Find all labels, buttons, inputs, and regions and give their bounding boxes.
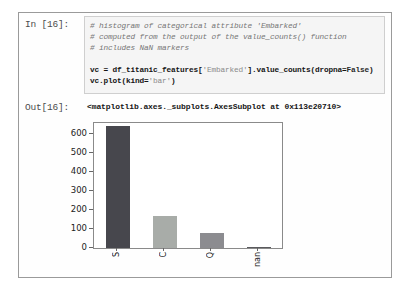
y-tick-label: 500 bbox=[71, 147, 87, 157]
x-tick-label: nan bbox=[254, 252, 262, 267]
code-cell-editor[interactable]: # histogram of categorical attribute 'Em… bbox=[84, 16, 385, 94]
output-prompt-label: Out[16]: bbox=[25, 102, 69, 113]
bar-S bbox=[106, 126, 130, 248]
code-token-comment: # includes NaN markers bbox=[90, 44, 189, 52]
y-tick: 200 bbox=[71, 204, 93, 214]
output-repr-text: <matplotlib.axes._subplots.AxesSubplot a… bbox=[87, 102, 341, 111]
bar-C bbox=[153, 216, 177, 248]
code-line: vc = df_titanic_features['Embarked'].val… bbox=[90, 65, 379, 76]
y-tick-label: 600 bbox=[71, 128, 87, 138]
y-tick: 100 bbox=[71, 223, 93, 233]
code-line: # computed from the output of the value_… bbox=[90, 32, 379, 43]
x-tick: Q bbox=[207, 248, 215, 258]
code-token-code: ].value_counts(dropna= bbox=[248, 66, 347, 74]
x-tick-mark bbox=[163, 248, 164, 251]
y-axis: 0100200300400500600 bbox=[43, 122, 93, 247]
code-token-string: 'bar' bbox=[149, 77, 172, 85]
y-tick: 0 bbox=[82, 242, 93, 252]
code-token-comment: # histogram of categorical attribute 'Em… bbox=[90, 22, 302, 30]
input-prompt-label: In [16]: bbox=[25, 19, 69, 30]
y-tick-label: 300 bbox=[71, 185, 87, 195]
x-tick: nan bbox=[254, 248, 262, 267]
y-tick: 600 bbox=[71, 128, 93, 138]
x-tick-mark bbox=[257, 248, 258, 251]
code-token-code: ) bbox=[171, 77, 176, 85]
code-token-code: vc = df_titanic_features[ bbox=[90, 66, 203, 74]
x-tick: S bbox=[113, 248, 121, 257]
code-line: # histogram of categorical attribute 'Em… bbox=[90, 21, 379, 32]
y-tick-label: 100 bbox=[71, 223, 87, 233]
y-tick: 300 bbox=[71, 185, 93, 195]
y-tick: 400 bbox=[71, 166, 93, 176]
y-tick-label: 0 bbox=[82, 242, 87, 252]
notebook-cell-frame: In [16]: # histogram of categorical attr… bbox=[18, 12, 392, 278]
x-tick: C bbox=[160, 248, 168, 258]
code-line: # includes NaN markers bbox=[90, 43, 379, 54]
code-token-keyword: False bbox=[347, 66, 370, 74]
bar-Q bbox=[200, 233, 224, 248]
x-tick-mark bbox=[116, 248, 117, 251]
code-token-code: ) bbox=[369, 66, 374, 74]
code-token-code: vc.plot(kind= bbox=[90, 77, 149, 85]
code-token-string: 'Embarked' bbox=[203, 66, 248, 74]
y-tick-label: 200 bbox=[71, 204, 87, 214]
plot-area bbox=[93, 122, 283, 249]
code-token-comment: # computed from the output of the value_… bbox=[90, 33, 347, 41]
x-axis: SCQnan bbox=[93, 248, 281, 278]
x-tick-label: S bbox=[113, 252, 121, 257]
x-tick-label: C bbox=[160, 252, 168, 258]
code-line bbox=[90, 54, 379, 65]
y-tick: 500 bbox=[71, 147, 93, 157]
x-tick-label: Q bbox=[207, 252, 215, 258]
x-tick-mark bbox=[210, 248, 211, 251]
code-line: vc.plot(kind='bar') bbox=[90, 76, 379, 87]
y-tick-label: 400 bbox=[71, 166, 87, 176]
